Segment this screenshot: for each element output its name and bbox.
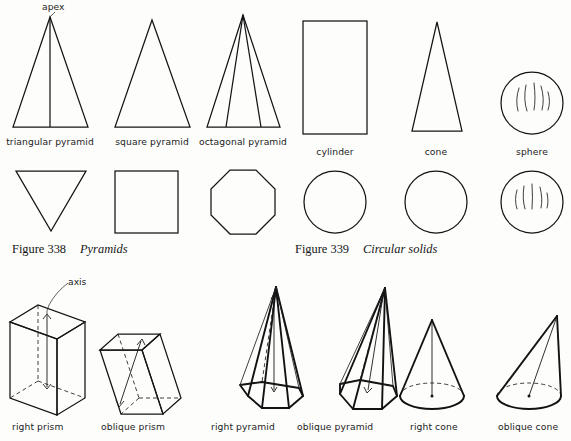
label-right-prism: right prism bbox=[12, 421, 64, 432]
shape-cylinder-elevation bbox=[303, 21, 367, 134]
shape-oblique-pyramid bbox=[340, 288, 397, 409]
label-octagonal-pyramid: octagonal pyramid bbox=[199, 136, 287, 147]
caption-338-title: Pyramids bbox=[66, 242, 128, 256]
label-oblique-pyramid: oblique pyramid bbox=[297, 421, 373, 432]
annotation-axis: axis bbox=[68, 276, 86, 287]
label-triangular-pyramid: triangular pyramid bbox=[6, 136, 94, 147]
shape-sphere-elevation bbox=[501, 72, 563, 134]
shape-right-cone bbox=[400, 320, 464, 409]
figure-plate: apex axis triangular pyramid square pyra… bbox=[0, 0, 571, 441]
label-square-pyramid: square pyramid bbox=[115, 136, 189, 147]
caption-339-title: Circular solids bbox=[349, 242, 437, 256]
shape-octagonal-pyramid-elevation bbox=[207, 15, 280, 127]
label-cone: cone bbox=[425, 146, 448, 157]
shape-square-pyramid-plan bbox=[115, 171, 178, 233]
caption-figure-338: Figure 338Pyramids bbox=[12, 242, 128, 257]
label-cylinder: cylinder bbox=[316, 146, 353, 157]
shape-cone-plan bbox=[405, 171, 467, 233]
shape-triangular-pyramid-plan bbox=[16, 171, 86, 231]
figure-drawings-layer bbox=[0, 0, 571, 441]
shape-oblique-cone bbox=[497, 316, 561, 409]
shape-cylinder-plan bbox=[304, 171, 366, 233]
label-right-pyramid: right pyramid bbox=[211, 421, 275, 432]
apex-leader-line bbox=[50, 12, 55, 17]
shape-triangular-pyramid-elevation bbox=[13, 17, 88, 127]
shape-right-pyramid bbox=[240, 287, 303, 408]
shape-cone-elevation bbox=[412, 22, 462, 131]
label-sphere: sphere bbox=[516, 146, 548, 157]
shape-octagonal-pyramid-plan bbox=[211, 170, 275, 234]
label-right-cone: right cone bbox=[410, 421, 458, 432]
label-oblique-cone: oblique cone bbox=[498, 421, 558, 432]
annotation-apex: apex bbox=[42, 1, 64, 12]
label-oblique-prism: oblique prism bbox=[101, 421, 165, 432]
shape-right-prism bbox=[10, 283, 85, 415]
shape-square-pyramid-elevation bbox=[115, 20, 190, 127]
shape-oblique-prism bbox=[100, 334, 181, 414]
caption-338-number: Figure 338 bbox=[12, 242, 66, 256]
shape-sphere-plan bbox=[501, 171, 563, 233]
caption-339-number: Figure 339 bbox=[295, 242, 349, 256]
caption-figure-339: Figure 339Circular solids bbox=[295, 242, 437, 257]
